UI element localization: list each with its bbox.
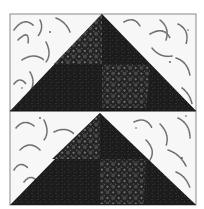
bottom-goose-lattice-lower-right <box>100 159 146 204</box>
quilt-block-image <box>0 0 204 209</box>
